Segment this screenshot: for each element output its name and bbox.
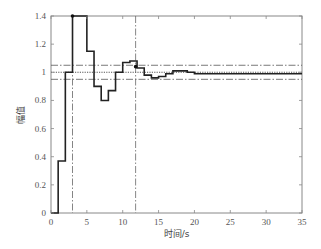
step-response-series	[51, 16, 302, 213]
x-axis-label: 时间/s	[164, 228, 190, 239]
x-tick-label: 25	[226, 217, 236, 227]
y-tick-label: 1.2	[35, 39, 46, 49]
data-point-marker	[71, 14, 75, 18]
x-tick-label: 20	[190, 217, 200, 227]
y-tick-label: 0	[42, 208, 47, 218]
y-tick-label: 1	[42, 67, 47, 77]
y-tick-label: 0.4	[35, 152, 47, 162]
y-tick-label: 1.4	[35, 11, 47, 21]
y-tick-label: 0.8	[35, 95, 47, 105]
data-point-marker	[134, 65, 138, 69]
x-tick-label: 10	[118, 217, 128, 227]
x-tick-label: 15	[154, 217, 164, 227]
plot-frame	[51, 16, 302, 213]
y-tick-label: 0.2	[35, 180, 46, 190]
x-tick-label: 30	[262, 217, 272, 227]
x-tick-label: 5	[85, 217, 90, 227]
y-tick-label: 0.6	[35, 124, 47, 134]
y-axis-label: 幅值	[15, 106, 26, 124]
x-tick-label: 35	[298, 217, 308, 227]
step-response-chart: 0510152025303500.20.40.60.811.21.4时间/s幅值	[0, 0, 321, 249]
x-tick-label: 0	[49, 217, 54, 227]
